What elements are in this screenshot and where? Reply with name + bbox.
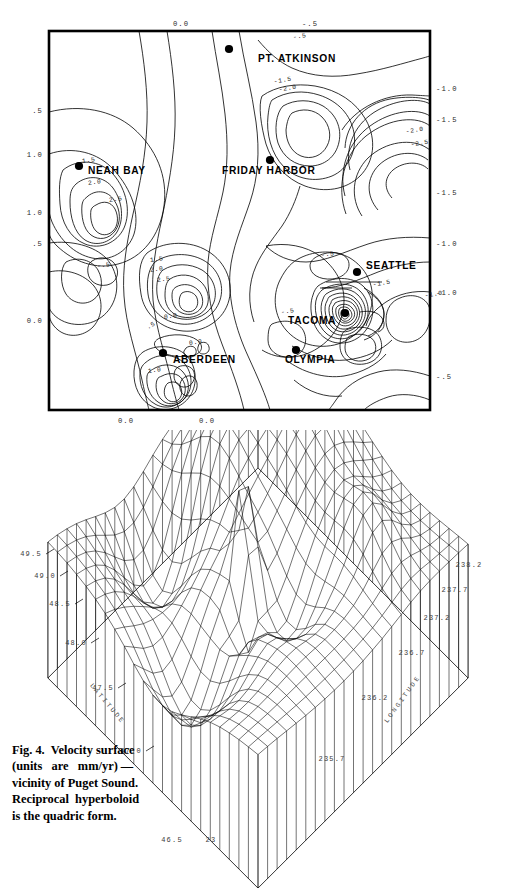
latitude-tick: 49.0: [34, 572, 56, 580]
figure-caption: Fig. 4. Velocity surface(units are mm/yr…: [12, 742, 180, 824]
map-axis-label-left: 1.0: [27, 151, 43, 159]
mesh-line: [153, 455, 363, 661]
latitude-tick: 48.5: [49, 600, 71, 608]
city-dot-aberdeen: [159, 349, 167, 357]
mesh-line: [46, 549, 54, 554]
mesh-line: [124, 499, 334, 690]
figure-4: 1.52.02.51.52.02.5-.50.0.51.00.0-.5-1.5-…: [0, 0, 516, 888]
caption-line: is the quadric form.: [12, 808, 180, 824]
map-axis-label-right: -1.0: [436, 240, 458, 248]
latitude-tick: 48.0: [65, 639, 87, 647]
map-axis-label-right: -1.0: [436, 85, 458, 93]
map-axis-label-bottom: 0.0: [118, 417, 134, 425]
caption-line: Fig. 4. Velocity surface: [12, 742, 180, 758]
map-axis-label-bottom: 0.0: [199, 417, 215, 425]
city-dot-friday-harbor: [266, 156, 274, 164]
map-axis-label-left: .5: [32, 240, 43, 248]
map-axis-label-top: 0.0: [173, 20, 189, 28]
city-label-seattle: SEATTLE: [366, 260, 417, 271]
mesh-line: [163, 442, 373, 725]
mesh-line: [105, 513, 315, 708]
longitude-tick: 236.2: [361, 694, 388, 702]
mesh-line: [182, 470, 392, 723]
mesh-line: [220, 512, 430, 727]
map-axis-label-left: .5: [32, 107, 43, 115]
city-dot-pt-atkinson: [225, 45, 233, 53]
contour-map-svg: 1.52.02.51.52.02.5-.50.0.51.00.0-.5-1.5-…: [0, 0, 516, 430]
longitude-tick: 235.7: [318, 755, 345, 763]
longitude-tick: 236.7: [398, 649, 425, 657]
caption-line: vicinity of Puget Sound.: [12, 775, 180, 791]
city-label-pt-atkinson: PT. ATKINSON: [258, 53, 336, 64]
mesh-line: [118, 683, 126, 688]
map-axis-label-top: -.5: [302, 20, 318, 28]
longitude-tick: 23: [206, 836, 217, 844]
city-dot-tacoma: [341, 309, 349, 317]
city-dot-neah-bay: [75, 162, 83, 170]
longitude-tick: 237.7: [441, 586, 468, 594]
map-axis-label-right: -1.5: [436, 116, 458, 124]
city-label-olympia: OLYMPIA: [285, 354, 335, 365]
mesh-line: [67, 529, 277, 739]
map-axis-label-right: -1.0: [436, 289, 458, 297]
mesh-line: [86, 520, 296, 724]
caption-line: (units are mm/yr) —: [12, 758, 180, 774]
city-label-tacoma: TACOMA: [288, 315, 336, 326]
map-axis-label-left: 1.0: [27, 209, 43, 217]
map-axis-label-right: -1.5: [436, 189, 458, 197]
city-dot-seattle: [353, 268, 361, 276]
city-label-neah-bay: NEAH BAY: [88, 165, 146, 176]
city-label-friday-harbor: FRIDAY HARBOR: [222, 165, 315, 176]
latitude-tick: 49.5: [20, 550, 42, 558]
map-axis-label-right: -.5: [436, 373, 452, 381]
longitude-axis-name: LONGITUDE: [383, 674, 422, 724]
map-axis-label-left: 0.0: [27, 317, 43, 325]
contour-map-panel: 1.52.02.51.52.02.5-.50.0.51.00.0-.5-1.5-…: [0, 0, 516, 430]
city-label-aberdeen: ABERDEEN: [173, 354, 236, 365]
mesh-line: [91, 638, 99, 643]
latitude-tick: 46.5: [161, 836, 183, 844]
longitude-tick: 237.2: [423, 614, 450, 622]
caption-line: Reciprocal hyperboloid: [12, 791, 180, 807]
city-dot-olympia: [292, 346, 300, 354]
mesh-line: [75, 599, 83, 604]
longitude-tick: 238.2: [455, 561, 482, 569]
